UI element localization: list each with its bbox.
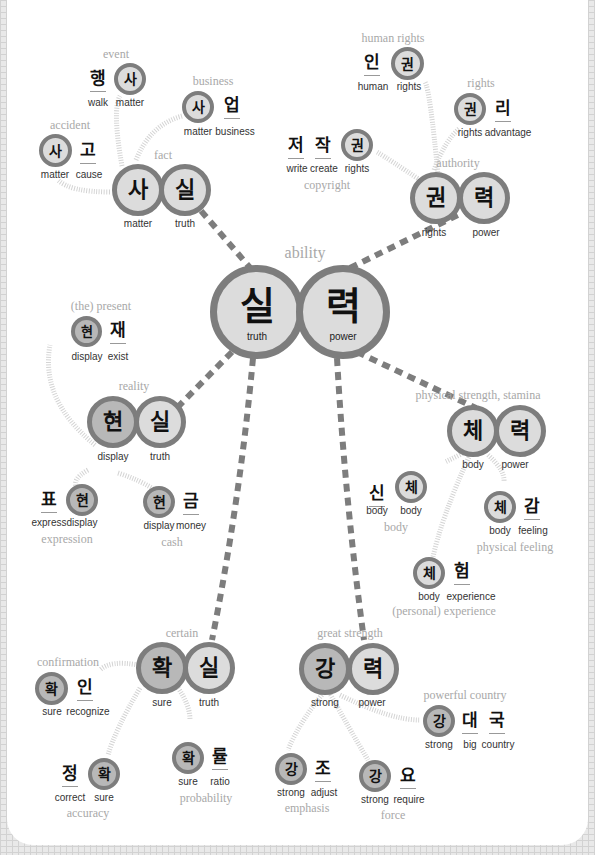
cash-syllable-1[interactable]: 현 (143, 486, 175, 518)
fact-syllable-1[interactable]: 사 (112, 164, 164, 216)
glyph: 조 (313, 760, 333, 782)
gloss: strong (361, 794, 389, 805)
gloss: display (71, 351, 102, 362)
gloss: correct (55, 792, 86, 803)
glyph: 확 (45, 682, 58, 696)
gloss: matter (116, 97, 144, 108)
certain-syllable-2[interactable]: 실 (183, 642, 235, 694)
body-syllable-2[interactable]: 체 (395, 471, 427, 503)
authority-meaning: authority (436, 156, 479, 171)
gloss: body (489, 525, 511, 536)
probability-syllable-1[interactable]: 확 (172, 742, 204, 774)
glyph: 인 (75, 679, 95, 701)
event-syllable-2[interactable]: 사 (114, 63, 146, 95)
gloss: body (462, 459, 484, 470)
glyph: 권 (464, 102, 477, 116)
glyph: 요 (398, 767, 418, 789)
glyph: 강 (285, 762, 298, 776)
stamina-syllable-1[interactable]: 체 (447, 405, 499, 457)
gloss: power (501, 459, 528, 470)
great-strength-syllable-2[interactable]: 력 (347, 643, 399, 695)
powerful-country-syllable-1[interactable]: 강 (423, 705, 455, 737)
gloss: body (366, 505, 388, 516)
human-rights-syllable-2[interactable]: 권 (391, 47, 424, 80)
present-syllable-1[interactable]: 현 (71, 316, 102, 347)
gloss: exist (108, 351, 129, 362)
gloss: display (97, 451, 128, 462)
gloss: truth (150, 451, 170, 462)
center-syllable-1[interactable]: 실 truth (210, 265, 304, 359)
experience-meaning: (personal) experience (392, 604, 496, 619)
business-syllable-1[interactable]: 사 (182, 91, 214, 123)
expression-meaning: expression (41, 532, 92, 547)
glyph: 체 (494, 500, 507, 514)
gloss: experience (447, 591, 496, 602)
gloss: ratio (210, 776, 229, 787)
glyph: 확 (98, 767, 111, 781)
experience-syllable-1[interactable]: 체 (413, 557, 445, 589)
glyph: 사 (128, 179, 148, 201)
gloss: walk (88, 97, 108, 108)
gloss: recognize (66, 706, 109, 717)
rights-syllable-1[interactable]: 권 (454, 93, 486, 125)
glyph: 현 (81, 325, 93, 338)
center-syllable-2[interactable]: 력 power (296, 265, 390, 359)
glyph: 표 (39, 491, 59, 513)
reality-syllable-1[interactable]: 현 (87, 396, 139, 448)
force-syllable-1[interactable]: 강 (359, 760, 391, 792)
gloss: write (286, 163, 307, 174)
gloss: money (176, 520, 206, 531)
gloss: country (482, 739, 515, 750)
glyph: 저 (286, 137, 306, 159)
glyph: 실 (240, 287, 275, 325)
reality-syllable-2[interactable]: 실 (134, 396, 186, 448)
great-strength-meaning: great strength (317, 626, 383, 641)
confirmation-meaning: confirmation (37, 655, 99, 670)
glyph: 확 (182, 751, 195, 765)
accuracy-syllable-2[interactable]: 확 (88, 758, 120, 790)
gloss: require (393, 794, 424, 805)
present-meaning: (the) present (71, 299, 131, 314)
fact-syllable-2[interactable]: 실 (159, 164, 211, 216)
gloss: strong (277, 787, 305, 798)
authority-syllable-2[interactable]: 력 (458, 172, 510, 224)
gloss: big (463, 739, 476, 750)
accident-syllable-1[interactable]: 사 (39, 134, 72, 167)
glyph: 현 (76, 493, 89, 507)
glyph: 강 (315, 658, 335, 680)
glyph: 실 (199, 657, 219, 679)
gloss: truth (175, 218, 195, 229)
gloss: sure (42, 706, 61, 717)
gloss: matter (184, 126, 212, 137)
stamina-meaning: physical strength, stamina (416, 388, 541, 403)
event-meaning: event (103, 47, 129, 62)
expression-syllable-2[interactable]: 현 (66, 484, 98, 516)
gloss: power (358, 697, 385, 708)
glyph: 재 (108, 322, 128, 344)
gloss: body (400, 505, 422, 516)
center-meaning: ability (285, 244, 326, 262)
emphasis-syllable-1[interactable]: 강 (275, 753, 307, 785)
authority-syllable-1[interactable]: 권 (410, 172, 462, 224)
gloss: create (310, 163, 338, 174)
glyph: 현 (103, 411, 123, 433)
physical-feeling-syllable-1[interactable]: 체 (484, 491, 516, 523)
glyph: 고 (78, 142, 98, 164)
glyph: 작 (313, 137, 333, 159)
confirmation-syllable-1[interactable]: 확 (35, 672, 68, 705)
great-strength-syllable-1[interactable]: 강 (299, 643, 351, 695)
glyph: 력 (326, 287, 361, 325)
glyph: 강 (369, 769, 382, 783)
connector-to-fact (196, 205, 252, 270)
glyph: 인 (362, 54, 382, 76)
glyph: 사 (49, 144, 62, 158)
certain-syllable-1[interactable]: 확 (136, 642, 188, 694)
gloss: truth (217, 331, 297, 342)
gloss: rights (345, 163, 369, 174)
certain-meaning: certain (166, 626, 199, 641)
stamina-syllable-2[interactable]: 력 (494, 405, 546, 457)
probability-meaning: probability (180, 791, 233, 806)
copyright-syllable-3[interactable]: 권 (341, 129, 373, 161)
word-map: ability 실 truth 력 power fact 사 실 matter … (0, 0, 595, 855)
copyright-meaning: copyright (304, 178, 350, 193)
